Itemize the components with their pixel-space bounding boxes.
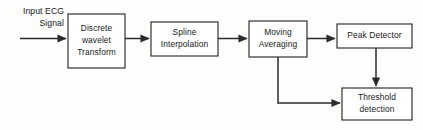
- ecg-block-diagram: Input ECG Signal Discrete wavelet Transf…: [0, 0, 423, 130]
- block-discrete-wavelet-transform: [68, 14, 125, 68]
- input-signal-label-line2: Signal: [6, 18, 64, 30]
- input-signal-label: Input ECG Signal: [6, 6, 64, 29]
- block-moving-averaging: [249, 21, 307, 57]
- block-spline-interpolation: [151, 22, 218, 56]
- input-signal-label-line1: Input ECG: [6, 6, 64, 18]
- connector-moving-averaging-to-threshold: [278, 57, 340, 103]
- block-threshold-detection: [342, 88, 412, 120]
- block-peak-detector: [337, 24, 412, 48]
